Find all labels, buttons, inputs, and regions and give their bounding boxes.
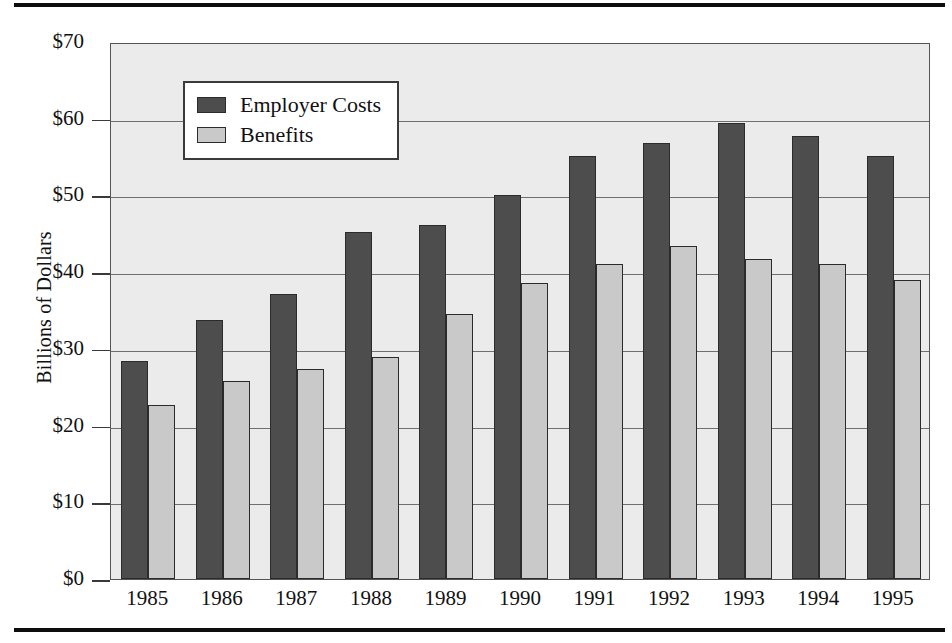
x-tick-label-1985: 1985 — [110, 586, 185, 611]
chart-legend: Employer CostsBenefits — [183, 81, 399, 160]
bar-1994-employer-costs[interactable] — [792, 136, 819, 579]
bar-group-1992 — [633, 44, 708, 579]
y-tick-label: $70 — [53, 29, 85, 54]
bar-1991-benefits[interactable] — [596, 264, 623, 579]
bar-1985-benefits[interactable] — [148, 405, 175, 579]
bar-1989-employer-costs[interactable] — [419, 225, 446, 579]
legend-label: Employer Costs — [240, 92, 381, 118]
bar-group-1989 — [409, 44, 484, 579]
y-tick-label: $40 — [53, 259, 85, 284]
bar-group-1985 — [111, 44, 186, 579]
legend-label: Benefits — [240, 122, 313, 148]
x-tick-label-1987: 1987 — [259, 586, 334, 611]
bar-1986-benefits[interactable] — [223, 381, 250, 579]
y-tick-mark — [92, 350, 110, 352]
y-tick-mark — [92, 427, 110, 429]
y-tick-mark — [92, 196, 110, 198]
bar-1986-employer-costs[interactable] — [196, 320, 223, 579]
x-axis-ticks: 1985198619871988198919901991199219931994… — [110, 586, 930, 620]
y-axis-ticks: $0$10$20$30$40$50$60$70 — [0, 0, 110, 643]
legend-item-employer-costs[interactable]: Employer Costs — [197, 90, 381, 120]
bar-1993-employer-costs[interactable] — [718, 123, 745, 579]
bar-1987-benefits[interactable] — [297, 369, 324, 579]
y-tick-mark — [92, 503, 110, 505]
bar-group-1994 — [782, 44, 857, 579]
y-tick-mark — [92, 273, 110, 275]
x-tick-label-1989: 1989 — [408, 586, 483, 611]
y-tick-label: $60 — [53, 106, 85, 131]
bar-1985-employer-costs[interactable] — [121, 361, 148, 579]
x-tick-label-1994: 1994 — [781, 586, 856, 611]
bar-1987-employer-costs[interactable] — [270, 294, 297, 579]
bar-1988-employer-costs[interactable] — [345, 232, 372, 579]
bar-1991-employer-costs[interactable] — [569, 156, 596, 579]
bar-chart-figure: Billions of Dollars $0$10$20$30$40$50$60… — [0, 0, 952, 643]
bar-1992-benefits[interactable] — [670, 246, 697, 579]
legend-swatch-benefits — [197, 127, 226, 143]
x-tick-label-1992: 1992 — [632, 586, 707, 611]
x-tick-label-1988: 1988 — [334, 586, 409, 611]
bar-1995-employer-costs[interactable] — [867, 156, 894, 579]
bar-1989-benefits[interactable] — [446, 314, 473, 579]
bar-1990-employer-costs[interactable] — [494, 195, 521, 579]
legend-swatch-employer-costs — [197, 97, 226, 113]
x-tick-label-1990: 1990 — [483, 586, 558, 611]
bar-1993-benefits[interactable] — [745, 259, 772, 579]
bar-1988-benefits[interactable] — [372, 357, 399, 579]
x-tick-label-1986: 1986 — [185, 586, 260, 611]
bar-group-1991 — [558, 44, 633, 579]
bar-1992-employer-costs[interactable] — [643, 143, 670, 580]
bar-1994-benefits[interactable] — [819, 264, 846, 579]
y-tick-label: $30 — [53, 336, 85, 361]
bar-group-1990 — [484, 44, 559, 579]
y-tick-mark — [92, 120, 110, 122]
x-tick-label-1991: 1991 — [557, 586, 632, 611]
bar-1995-benefits[interactable] — [894, 280, 921, 579]
y-tick-label: $0 — [63, 566, 84, 591]
x-tick-label-1995: 1995 — [855, 586, 930, 611]
legend-item-benefits[interactable]: Benefits — [197, 120, 381, 150]
y-tick-mark — [92, 580, 110, 582]
y-tick-label: $50 — [53, 182, 85, 207]
y-tick-label: $10 — [53, 489, 85, 514]
y-tick-label: $20 — [53, 413, 85, 438]
bar-group-1993 — [707, 44, 782, 579]
x-tick-label-1993: 1993 — [706, 586, 781, 611]
bar-group-1995 — [856, 44, 931, 579]
bar-1990-benefits[interactable] — [521, 283, 548, 579]
